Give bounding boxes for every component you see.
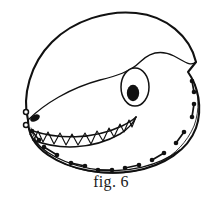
stitch-dot [192, 102, 197, 107]
stitch-dot-snout [24, 123, 29, 128]
stitch-dot [42, 145, 47, 150]
stitch-dot-snout [24, 110, 29, 115]
stitch-dot [83, 164, 88, 169]
stitch-dot [190, 115, 195, 120]
stitch-dot [137, 163, 142, 168]
stitch-dot [55, 153, 60, 158]
stitch-dot [190, 79, 195, 84]
stitch-dot [37, 138, 42, 143]
stitch-dot [30, 129, 35, 134]
stitch-dot [174, 141, 179, 146]
figure-container: Dinosaur head mask pattern illustration [0, 0, 222, 198]
stitch-dot [69, 161, 74, 166]
stitch-dot [192, 90, 197, 95]
stitch-dot [123, 166, 128, 171]
dinosaur-head-illustration: Dinosaur head mask pattern illustration [0, 0, 222, 176]
figure-caption: fig. 6 [0, 172, 222, 192]
stitch-dot [162, 151, 167, 156]
head-outline-path [26, 12, 199, 172]
stitch-dot [150, 158, 155, 163]
stitch-dot [182, 130, 187, 135]
pupil-shape [127, 85, 139, 101]
